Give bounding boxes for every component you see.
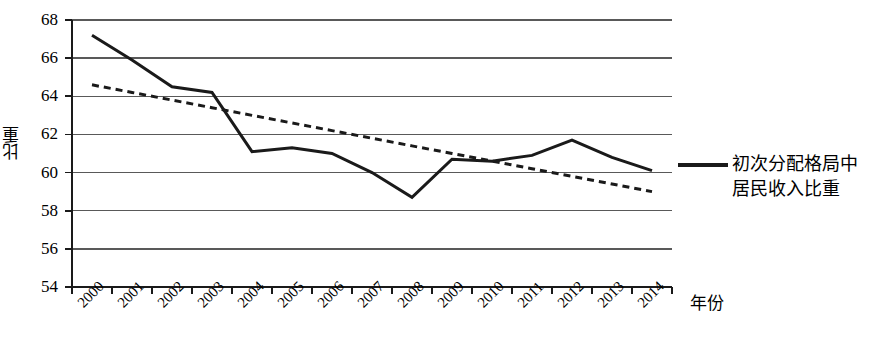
y-axis-tick-label: 56 (24, 240, 58, 257)
gridlines (72, 20, 672, 287)
legend-entry-label-line2: 居民收入比重 (732, 177, 886, 202)
y-axis-tick-label: 60 (24, 164, 58, 181)
y-axis-tick-label: 62 (24, 125, 58, 142)
axis-lines (72, 20, 672, 287)
chart-legend: 初次分配格局中 居民收入比重 (676, 152, 886, 202)
legend-solid-line-marker-icon (676, 158, 730, 172)
legend-entry-label-line1: 初次分配格局中 (732, 152, 886, 177)
y-axis-tick-label: 68 (24, 11, 58, 28)
chart-figure: 比重 年份 6866646260585654 20002001200220032… (0, 0, 889, 340)
x-axis-title: 年份 (690, 294, 724, 313)
trendline-series (92, 85, 652, 192)
y-axis-title: 比重 (2, 126, 26, 160)
legend-entry-label: 初次分配格局中 居民收入比重 (730, 152, 886, 202)
y-axis-tick-label: 66 (24, 49, 58, 66)
y-axis-tick-label: 54 (24, 278, 58, 295)
y-axis-tick-label: 64 (24, 87, 58, 104)
y-axis-tick-label: 58 (24, 202, 58, 219)
